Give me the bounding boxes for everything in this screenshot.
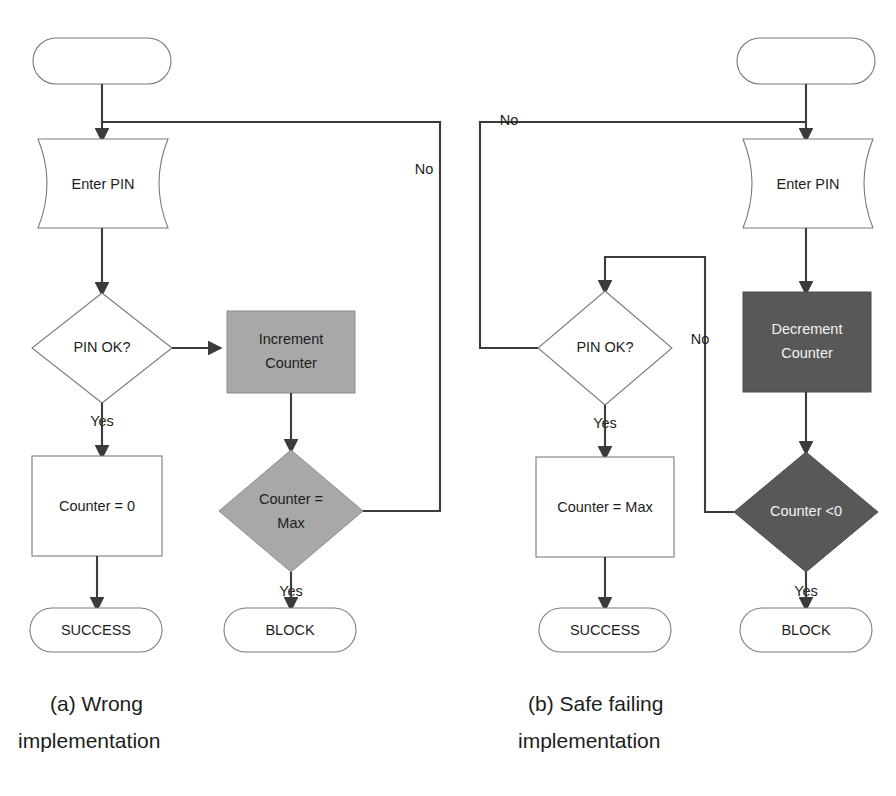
caption-a-line1: (a) Wrong xyxy=(50,692,143,715)
node-increment-counter-a-label-1: Increment xyxy=(259,331,323,347)
caption-a-line2: implementation xyxy=(18,729,160,752)
node-pin-ok-b-label: PIN OK? xyxy=(576,339,633,355)
edge-label-countermax-no-a: No xyxy=(415,161,434,177)
node-increment-counter-a-label-2: Counter xyxy=(265,355,317,371)
node-counter-zero-a-label: Counter = 0 xyxy=(59,498,135,514)
node-block-b-label: BLOCK xyxy=(781,622,830,638)
node-counter-max-a-label-2: Max xyxy=(277,515,305,531)
edge-label-pinok-no-b: No xyxy=(500,112,519,128)
diagram-a-group: Enter PIN PIN OK? Increment Counter Yes … xyxy=(18,38,440,752)
node-start-a xyxy=(33,38,171,84)
node-decrement-counter-b xyxy=(743,292,871,392)
page-bottom-bleed xyxy=(0,786,896,796)
node-counter-lt-zero-b-label: Counter <0 xyxy=(770,503,842,519)
node-counter-max-a-label-1: Counter = xyxy=(259,491,323,507)
node-start-b xyxy=(737,38,875,84)
node-enter-pin-b-label: Enter PIN xyxy=(777,176,840,192)
node-increment-counter-a xyxy=(227,311,355,393)
caption-b-line2: implementation xyxy=(518,729,660,752)
node-success-a-label: SUCCESS xyxy=(61,622,131,638)
diagram-b-group: Enter PIN Decrement Counter Counter <0 N… xyxy=(480,38,878,752)
node-decrement-counter-b-label-1: Decrement xyxy=(772,321,843,337)
node-decrement-counter-b-label-2: Counter xyxy=(781,345,833,361)
node-counter-max-a xyxy=(219,450,363,572)
caption-b-line1: (b) Safe failing xyxy=(528,692,663,715)
figure-container: Enter PIN PIN OK? Increment Counter Yes … xyxy=(0,0,896,796)
node-pin-ok-a-label: PIN OK? xyxy=(73,339,130,355)
node-enter-pin-a-label: Enter PIN xyxy=(72,176,135,192)
node-success-b-label: SUCCESS xyxy=(570,622,640,638)
flowchart-canvas: Enter PIN PIN OK? Increment Counter Yes … xyxy=(0,0,896,796)
node-counter-max-b-label: Counter = Max xyxy=(557,499,653,515)
node-block-a-label: BLOCK xyxy=(265,622,314,638)
edge-label-counterlt-no-b: No xyxy=(691,331,710,347)
